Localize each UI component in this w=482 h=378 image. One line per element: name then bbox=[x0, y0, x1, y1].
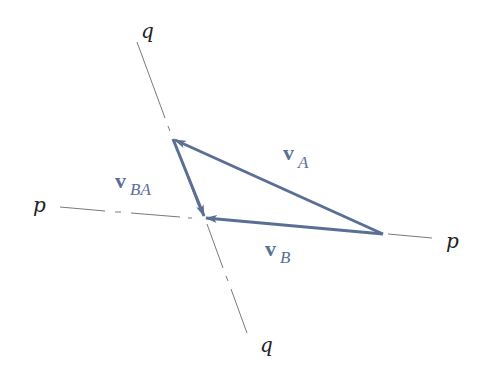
q-label-bottom: q bbox=[260, 333, 273, 357]
q-label-top: q bbox=[141, 19, 154, 43]
svg-text:v: v bbox=[115, 168, 126, 193]
label-vA: v A bbox=[283, 140, 309, 172]
label-vBA: v BA bbox=[115, 168, 151, 199]
p-label-left: p bbox=[33, 193, 46, 217]
svg-text:v: v bbox=[283, 140, 294, 165]
vector-vA bbox=[175, 140, 383, 234]
p-label-right: p bbox=[446, 229, 459, 253]
svg-text:BA: BA bbox=[130, 180, 151, 199]
label-vB: v B bbox=[265, 236, 291, 267]
vector-diagram: q q p p v A v B v BA bbox=[0, 0, 482, 378]
svg-text:A: A bbox=[297, 153, 309, 172]
svg-text:v: v bbox=[265, 236, 276, 261]
svg-text:B: B bbox=[280, 248, 291, 267]
